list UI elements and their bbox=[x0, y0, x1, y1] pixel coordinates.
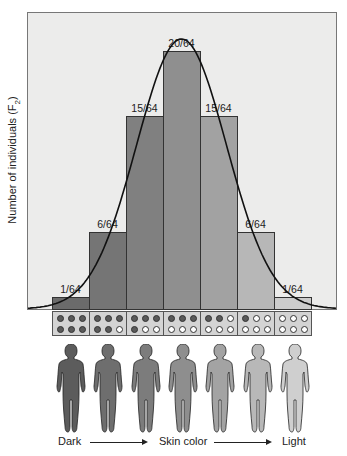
arrow-right-icon bbox=[90, 442, 146, 443]
human-figure-icon bbox=[243, 344, 273, 433]
arrow-right-icon bbox=[214, 442, 270, 443]
human-figure-icon bbox=[205, 344, 235, 433]
human-figure-icon bbox=[280, 344, 310, 433]
human-figure-icon bbox=[56, 344, 86, 433]
dark-label: Dark bbox=[58, 435, 81, 447]
skin-color-label: Skin color bbox=[159, 435, 207, 447]
human-figure-icon bbox=[168, 344, 198, 433]
light-label: Light bbox=[282, 435, 306, 447]
human-figure-icon bbox=[93, 344, 123, 433]
human-figure-icon bbox=[131, 344, 161, 433]
